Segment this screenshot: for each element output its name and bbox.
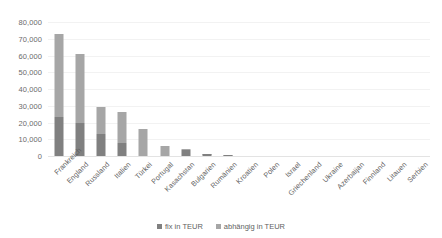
bar-stack[interactable] [160,146,169,156]
bar-slot [366,22,387,156]
y-axis-tick-label: 20,000 [18,118,42,127]
bar-stack[interactable] [118,112,127,156]
bar-slot [197,22,218,156]
bar-segment-dependent [75,54,84,123]
bar-slot [48,22,69,156]
bar-chart: 010,00020,00030,00040,00050,00060,00070,… [0,0,442,238]
bars-layer [48,22,430,156]
y-axis-tick-label: 40,000 [18,85,42,94]
x-axis-tick-label: Frankreich [52,160,69,177]
bar-slot [112,22,133,156]
bar-slot [175,22,196,156]
bar-stack[interactable] [54,34,63,156]
y-axis-tick-label: 0 [38,152,42,161]
bar-slot [154,22,175,156]
y-axis: 010,00020,00030,00040,00050,00060,00070,… [0,0,48,238]
legend-swatch-icon [157,224,162,229]
bar-slot [239,22,260,156]
bar-segment-fix [97,134,106,156]
bar-segment-dependent [97,107,106,134]
y-axis-tick-label: 30,000 [18,101,42,110]
bar-slot [218,22,239,156]
bar-stack[interactable] [75,54,84,156]
legend-label: fix in TEUR [165,222,203,231]
y-axis-tick-label: 70,000 [18,34,42,43]
bar-stack[interactable] [139,129,148,156]
bar-segment-dependent [139,129,148,156]
y-axis-tick-label: 60,000 [18,51,42,60]
bar-slot [409,22,430,156]
y-axis-tick-label: 10,000 [18,135,42,144]
bar-slot [303,22,324,156]
chart-legend: fix in TEURabhängig in TEUR [0,222,442,231]
bar-segment-dependent [118,112,127,143]
plot-area [48,22,430,156]
legend-label: abhängig in TEUR [224,222,285,231]
bar-slot [345,22,366,156]
legend-item[interactable]: abhängig in TEUR [216,222,285,231]
bar-slot [260,22,281,156]
bar-slot [324,22,345,156]
bar-segment-dependent [54,34,63,118]
bar-segment-fix [54,117,63,156]
bar-segment-fix [118,143,127,156]
bar-slot [133,22,154,156]
y-axis-tick-label: 80,000 [18,18,42,27]
bar-slot [281,22,302,156]
bar-stack[interactable] [181,149,190,156]
bar-slot [90,22,111,156]
bar-slot [69,22,90,156]
bar-stack[interactable] [97,107,106,156]
y-axis-tick-label: 50,000 [18,68,42,77]
legend-swatch-icon [216,224,221,229]
bar-segment-dependent [160,146,169,156]
x-axis: FrankreichEnglandRusslandItalienTürkeiPo… [48,156,430,218]
bar-slot [388,22,409,156]
legend-item[interactable]: fix in TEUR [157,222,203,231]
